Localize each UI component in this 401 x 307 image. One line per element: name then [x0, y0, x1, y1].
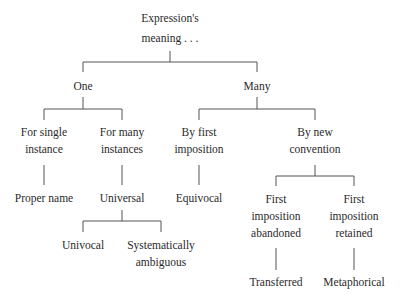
- node-transferred: Transferred: [249, 274, 302, 291]
- node-proper-name: Proper name: [15, 190, 73, 207]
- node-many: Many: [244, 78, 271, 95]
- node-universal: Universal: [100, 190, 145, 207]
- node-equivocal: Equivocal: [176, 190, 223, 207]
- node-systematically-ambiguous: Systematically ambiguous: [127, 237, 195, 271]
- node-for-many-instances: For many instances: [100, 124, 144, 158]
- node-by-first-imposition: By first imposition: [174, 124, 223, 158]
- node-root: Expression's meaning . . .: [141, 10, 199, 47]
- node-first-imposition-retained: First imposition retained: [329, 191, 378, 242]
- node-metaphorical: Metaphorical: [323, 274, 384, 291]
- node-univocal: Univocal: [62, 237, 104, 254]
- node-one: One: [73, 78, 92, 95]
- node-first-imposition-abandoned: First imposition abandoned: [251, 191, 301, 242]
- node-by-new-convention: By new convention: [289, 124, 340, 158]
- node-for-single-instance: For single instance: [21, 124, 67, 158]
